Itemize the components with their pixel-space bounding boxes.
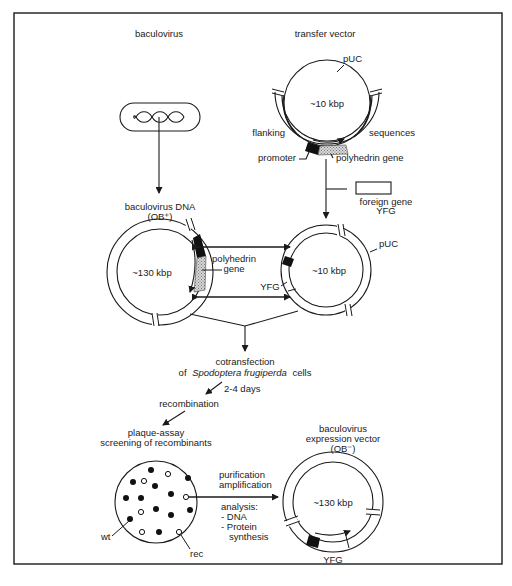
- flanking-label: flanking: [252, 127, 285, 138]
- plaque-plate: [115, 461, 197, 543]
- wt-label: wt: [100, 531, 111, 542]
- duration-label: 2-4 days: [224, 383, 261, 394]
- expression-vector-size: ~130 kbp: [313, 497, 352, 508]
- transfer-vector-backbone: pUC: [343, 53, 362, 64]
- transfer-vector-title: transfer vector: [295, 28, 356, 39]
- foreign-gene-yfg: YFG: [376, 205, 396, 216]
- baculovirus-dna-ob: (OB⁺): [147, 211, 172, 222]
- promoter-label: promoter: [258, 152, 296, 163]
- recombination-label: recombination: [159, 398, 219, 409]
- arrow-to-recombination: [206, 382, 222, 394]
- puc-leader: [337, 65, 344, 72]
- transfer-vector-size: ~10 kbp: [310, 98, 344, 109]
- expression-vector-yfg: YFG: [323, 554, 343, 565]
- cotransfection-label: cotransfection: [215, 356, 274, 367]
- foreign-gene-box: [356, 182, 391, 194]
- merge-bracket: [190, 311, 298, 326]
- rec-leader: [181, 535, 190, 549]
- baculovirus-dna-size: ~130 kbp: [132, 267, 171, 278]
- species-name: Spodoptera frugiperda: [192, 367, 287, 378]
- cotransfection-of: of: [179, 367, 187, 378]
- baculovirus-title: baculovirus: [135, 28, 183, 39]
- cotransfection-cells-label: of Spodoptera frugiperda cells: [179, 367, 312, 378]
- recombinant-vector-backbone: pUC: [379, 238, 398, 249]
- wild-type-plaques: [123, 467, 193, 535]
- baculovirus-particle: [120, 103, 200, 131]
- cotransfection-cells: cells: [292, 367, 311, 378]
- recombinant-vector-size: ~10 kbp: [312, 265, 346, 276]
- rec-label: rec: [190, 548, 203, 559]
- recombinant-puc-leader: [370, 249, 377, 252]
- sequences-label: sequences: [369, 127, 415, 138]
- amplification-label: amplification: [219, 479, 272, 490]
- crossover-gene-label-2: gene: [223, 263, 244, 274]
- crossover-yfg-label: YFG: [260, 281, 280, 292]
- promoter-leader: [299, 152, 309, 159]
- analysis-item-synthesis: synthesis: [229, 531, 269, 542]
- recombinant-plaques: [138, 471, 188, 534]
- polyhedrin-gene-label: polyhedrin gene: [336, 152, 404, 163]
- plaque-screening-label: screening of recombinants: [100, 437, 212, 448]
- baculovirus-expression-diagram: baculovirus transfer vector ~10 kbp pUC …: [0, 0, 512, 586]
- arrow-to-plaque-assay: [163, 411, 185, 425]
